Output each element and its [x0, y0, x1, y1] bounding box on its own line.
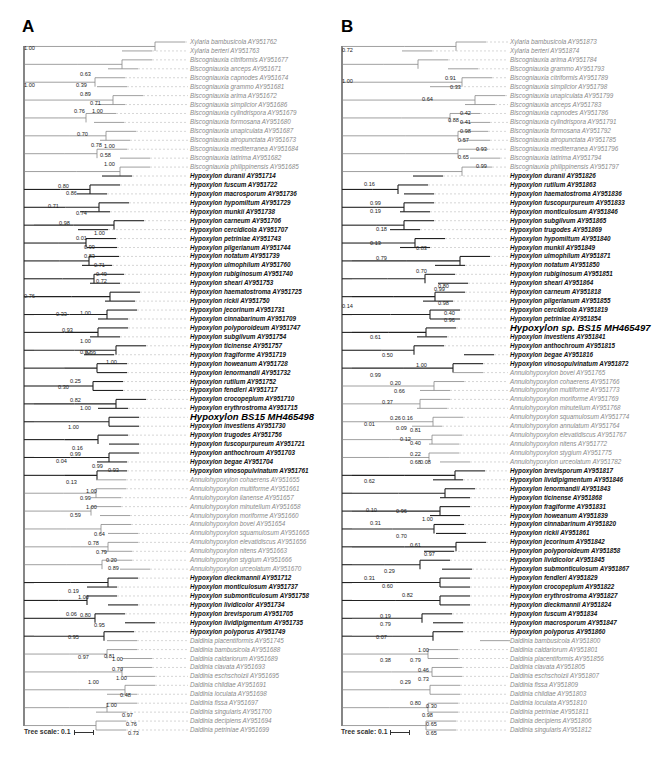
leaf-label: Annulohypoxylon bovei AY951765 [510, 369, 605, 377]
leaf-label: Hypoxylon BS15 MH465498 [190, 412, 314, 422]
support-value: 1.00 [418, 647, 429, 653]
leaf-label: Daldinia singularis AY951700 [190, 708, 272, 716]
support-value: 0.31 [364, 575, 375, 581]
support-value: 0.01 [364, 421, 375, 427]
leaf-label: Hypoxylon cinnabarinum AY951709 [190, 315, 296, 323]
support-value: 0.08 [420, 459, 431, 465]
support-value: 0.16 [364, 181, 375, 187]
leaf-label: Hypoxylon trugodes AY951869 [510, 226, 602, 234]
leaf-label: Hypoxylon cercidicola AY951707 [190, 226, 288, 234]
support-value: 1.00 [80, 338, 91, 344]
support-value: 0.99 [476, 163, 487, 169]
leaf-label: Hypoxylon ulmophilum AY951760 [190, 261, 290, 269]
leaf-label: Annulohypoxylon elevatidiscus AY951767 [510, 431, 626, 439]
leaf-label: Xylaria bambusicola AY951762 [190, 38, 277, 46]
leaf-label: Hypoxylon munkii AY951738 [190, 208, 275, 216]
support-value: 0.79 [376, 255, 387, 261]
support-value: 0.39 [76, 82, 87, 88]
support-value: 0.62 [364, 478, 375, 484]
support-value: 0.99 [370, 200, 381, 206]
support-value: 0.81 [410, 427, 421, 433]
support-value: 0.95 [94, 622, 105, 628]
leaf-label: Biscogniauxia cylindrispora AY951679 [190, 109, 296, 117]
leaf-label: Biscogniauxia philippinensis AY951685 [190, 163, 299, 171]
support-value: 1.00 [92, 108, 103, 114]
leaf-label: Hypoxylon brevisporum AY951705 [190, 610, 293, 618]
support-value: 0.60 [382, 583, 393, 589]
leaf-label: Hypoxylon rubiginosum AY951740 [190, 270, 293, 278]
support-value: 0.73 [128, 730, 139, 736]
support-value: 0.93 [108, 467, 119, 473]
leaf-label: Hypoxylon brevisporum AY951817 [510, 467, 613, 475]
support-value: 0.04 [56, 458, 67, 464]
support-value: 0.78 [91, 142, 102, 148]
leaf-label: Biscogniauxia capnodes AY951786 [510, 109, 608, 117]
leaf-label: Daldinia caldariorum AY951689 [190, 655, 278, 663]
support-value: 0.65 [426, 730, 437, 736]
leaf-label: Biscogniauxia citriformis AY951677 [190, 56, 288, 64]
leaf-label: Hypoxylon crocopeplum AY951710 [190, 395, 294, 403]
leaf-label: Hypoxylon begae AY951816 [510, 351, 593, 359]
support-value: 0.71 [90, 100, 101, 106]
support-value: 0.73 [418, 676, 429, 682]
support-value: 1.00 [104, 161, 115, 167]
support-value: 0.70 [77, 131, 88, 137]
leaf-label: Hypoxylon notatum AY951850 [510, 261, 600, 269]
support-value: 1.00 [104, 143, 115, 149]
leaf-label: Hypoxylon begae AY951704 [190, 458, 273, 466]
leaf-label: Hypoxylon dieckmannii AY951712 [190, 574, 291, 582]
support-value: 0.74 [76, 210, 87, 216]
support-value: 0.97 [78, 654, 89, 660]
leaf-label: Hypoxylon rickii AY951861 [510, 529, 589, 537]
leaf-label: Biscogniauxia capnodes AY951674 [190, 74, 288, 82]
support-value: 0.89 [108, 565, 119, 571]
leaf-label: Hypoxylon howeanum AY951728 [190, 360, 288, 368]
support-value: 0.76 [74, 108, 85, 114]
leaf-label: Daldinia petriniae AY951699 [190, 726, 269, 734]
leaf-label: Daldinia singularis AY951812 [510, 726, 592, 734]
leaf-label: Hypoxylon anthochroum AY951703 [190, 449, 295, 457]
support-value: 1.00 [106, 359, 117, 365]
support-value: 0.29 [384, 568, 395, 574]
support-value: 1.00 [416, 362, 427, 368]
leaf-label: Hypoxylon fuscum AY951722 [190, 181, 277, 189]
leaf-label: Daldinia placentiformis AY951745 [190, 637, 284, 645]
support-value: 0.18 [376, 226, 387, 232]
leaf-label: Hypoxylon anthochroum AY951815 [510, 342, 615, 350]
leaf-label: Biscogniauxia unapiculata AY951687 [190, 127, 293, 135]
leaf-label: Biscogniauxia grammo AY951793 [510, 65, 604, 73]
leaf-label: Daldinia clavata AY951805 [510, 663, 585, 671]
leaf-label: Annulohypoxylon ilanense AY951657 [190, 494, 294, 502]
support-value: 0.80 [410, 700, 421, 706]
leaf-label: Hypoxylon rickii AY951750 [190, 297, 269, 305]
leaf-label: Hypoxylon vinosopulvinatum AY951761 [190, 467, 309, 475]
leaf-label: Daldinia childiae AY951691 [190, 681, 266, 689]
support-value: 0.93 [62, 327, 73, 333]
leaf-label: Daldinia bambusicola AY951688 [190, 646, 280, 654]
leaf-label: Annulohypoxylon nitens AY951663 [190, 547, 287, 555]
panel-b: B Xylaria bambusicola AY951873Xylaria be… [330, 0, 660, 759]
leaf-label: Xylaria berteri AY951763 [190, 47, 259, 55]
leaf-label: Daldinia petriniae AY951811 [510, 708, 589, 716]
leaf-label: Hypoxylon ulmophilum AY951871 [510, 252, 610, 260]
leaf-label: Hypoxylon cinnabarinum AY951820 [510, 520, 616, 528]
leaf-label: Hypoxylon haematostroma AY951836 [510, 190, 622, 198]
leaf-label: Hypoxylon sheari AY951753 [190, 279, 273, 287]
support-value: 0.99 [85, 350, 96, 356]
leaf-label: Biscogniauxia anceps AY951671 [190, 65, 281, 73]
leaf-label: Biscogniauxia atropunctata AY951785 [510, 136, 616, 144]
leaf-label: Annulohypoxylon urceolatum AY951782 [510, 458, 621, 466]
leaf-label: Hypoxylon subgilvum AY951865 [510, 217, 606, 225]
leaf-label: Hypoxylon polyporus AY951860 [510, 628, 605, 636]
leaf-label: Hypoxylon macrosporum AY951736 [190, 190, 297, 198]
leaf-label: Hypoxylon investiens AY951730 [190, 422, 286, 430]
leaf-label: Hypoxylon erythrostroma AY951827 [510, 592, 617, 600]
support-value: 1.00 [106, 702, 117, 708]
support-value: 1.00 [88, 679, 99, 685]
leaf-label: Hypoxylon investiens AY951841 [510, 333, 606, 341]
leaf-label: Hypoxylon fendleri AY951829 [510, 574, 598, 582]
leaf-label: Hypoxylon duranii AY951826 [510, 172, 596, 180]
leaf-label: Biscogniauxia anceps AY951783 [510, 101, 601, 109]
support-value: 0.83 [416, 245, 427, 251]
support-value: 0.78 [88, 540, 99, 546]
